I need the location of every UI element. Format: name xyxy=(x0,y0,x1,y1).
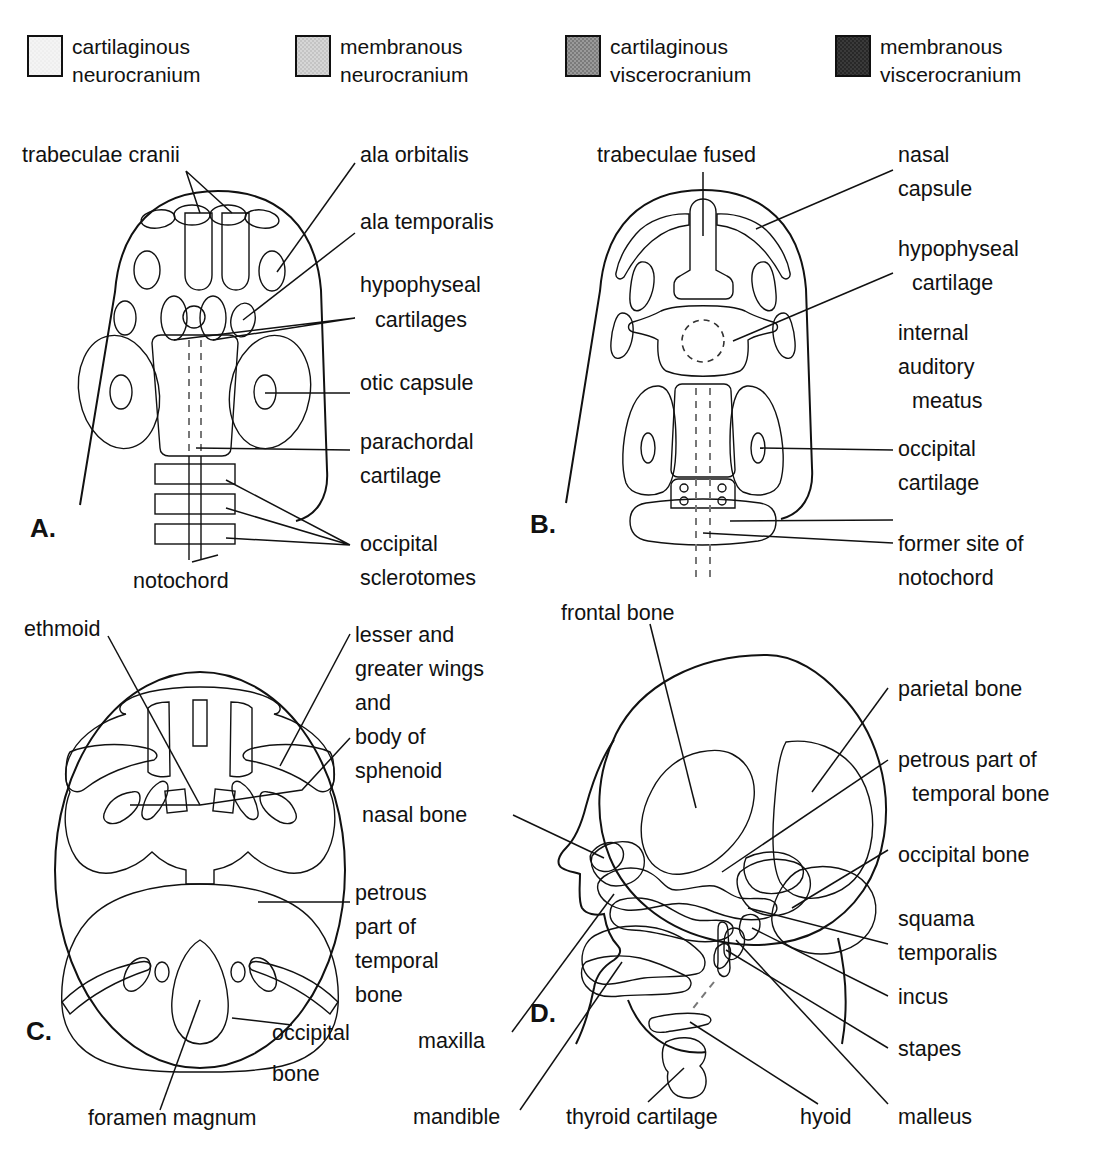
panel-c-letter: C. xyxy=(26,1016,52,1046)
panel-c-label-sphenoid-line2: greater wings xyxy=(355,657,484,681)
legend-label-line2: neurocranium xyxy=(340,63,468,86)
panel-c-label-sphenoid-line1: lesser and xyxy=(355,623,454,647)
panel-b-label-trabeculae-fused: trabeculae fused xyxy=(597,143,756,167)
panel-d-label-incus: incus xyxy=(898,985,948,1009)
legend-label-line2: viscerocranium xyxy=(610,63,751,86)
legend-label-line1: membranous xyxy=(340,35,463,58)
panel-d-letter: D. xyxy=(530,998,556,1028)
panel-a-letter: A. xyxy=(30,513,56,543)
legend-swatch-membranous-neurocranium xyxy=(296,36,330,76)
panel-d-label-malleus: malleus xyxy=(898,1105,972,1129)
panel-c-label-petrous-line4: bone xyxy=(355,983,403,1007)
panel-d-label-petrous-line1: petrous part of xyxy=(898,748,1037,772)
panel-b-leader-occipital-cartilage xyxy=(730,520,893,521)
legend-swatch-membranous-viscerocranium xyxy=(836,36,870,76)
legend-label-line1: membranous xyxy=(880,35,1003,58)
panel-a-label-occipital-line2: sclerotomes xyxy=(360,566,476,590)
legend-swatch-cartilaginous-neurocranium xyxy=(28,36,62,76)
panel-a-label-otic-capsule: otic capsule xyxy=(360,371,474,395)
panel-d-label-hyoid: hyoid xyxy=(800,1105,851,1129)
legend-label-line1: cartilaginous xyxy=(72,35,190,58)
panel-a-label-notochord: notochord xyxy=(133,569,229,593)
panel-d-label-mandible: mandible xyxy=(413,1105,500,1129)
panel-c-label-occipital-line2: bone xyxy=(272,1062,320,1086)
figure-canvas: cartilaginous neurocranium membranous ne… xyxy=(0,0,1098,1155)
panel-d-label-frontal-bone: frontal bone xyxy=(561,601,675,625)
panel-d-label-squama-line1: squama xyxy=(898,907,975,931)
panel-d-label-squama-line2: temporalis xyxy=(898,941,997,965)
panel-b-letter: B. xyxy=(530,509,556,539)
panel-d-label-occipital-bone: occipital bone xyxy=(898,843,1029,867)
panel-b-label-occipital-line1: occipital xyxy=(898,437,976,461)
panel-a-label-hypophyseal-line1: hypophyseal xyxy=(360,273,481,297)
skull-development-figure: cartilaginous neurocranium membranous ne… xyxy=(0,0,1098,1155)
panel-d-label-maxilla: maxilla xyxy=(418,1029,485,1053)
panel-c-label-sphenoid-line3: and xyxy=(355,691,391,715)
panel-b-label-internal-line2: auditory xyxy=(898,355,975,379)
panel-a-label-trabeculae-cranii: trabeculae cranii xyxy=(22,143,180,167)
panel-c-label-sphenoid-line4: body of xyxy=(355,725,426,749)
panel-d-label-petrous-line2: temporal bone xyxy=(912,782,1049,806)
panel-a-label-parachordal-line1: parachordal xyxy=(360,430,474,454)
panel-c-label-petrous-line1: petrous xyxy=(355,881,427,905)
panel-d-label-nasal-bone: nasal bone xyxy=(362,803,467,827)
panel-b-label-hypophyseal-line1: hypophyseal xyxy=(898,237,1019,261)
legend-swatch-cartilaginous-viscerocranium xyxy=(566,36,600,76)
panel-b-label-nasal-line2: capsule xyxy=(898,177,972,201)
panel-d-label-thyroid-cartilage: thyroid cartilage xyxy=(566,1105,718,1129)
panel-a-label-occipital-line1: occipital xyxy=(360,532,438,556)
legend-label-line2: viscerocranium xyxy=(880,63,1021,86)
panel-c-label-sphenoid-line5: sphenoid xyxy=(355,759,442,783)
panel-d-label-stapes: stapes xyxy=(898,1037,961,1061)
panel-a-label-ala-temporalis: ala temporalis xyxy=(360,210,494,234)
panel-b-label-former-line1: former site of xyxy=(898,532,1023,556)
panel-b-label-occipital-line2: cartilage xyxy=(898,471,979,495)
panel-a-label-parachordal-line2: cartilage xyxy=(360,464,441,488)
panel-b-label-internal-line3: meatus xyxy=(912,389,983,413)
panel-c-label-petrous-line2: part of xyxy=(355,915,416,939)
panel-b-label-internal-line1: internal xyxy=(898,321,969,345)
panel-c-label-foramen-magnum: foramen magnum xyxy=(88,1106,257,1130)
panel-b-label-former-line2: notochord xyxy=(898,566,994,590)
panel-c-label-ethmoid: ethmoid xyxy=(24,617,101,641)
panel-a-label-hypophyseal-line2: cartilages xyxy=(375,308,467,332)
panel-c-label-occipital-line1: occipital xyxy=(272,1021,350,1045)
panel-c-label-petrous-line3: temporal xyxy=(355,949,439,973)
legend-label-line1: cartilaginous xyxy=(610,35,728,58)
panel-b-label-nasal-line1: nasal xyxy=(898,143,949,167)
panel-b-label-hypophyseal-line2: cartilage xyxy=(912,271,993,295)
panel-d-label-parietal-bone: parietal bone xyxy=(898,677,1022,701)
legend-label-line2: neurocranium xyxy=(72,63,200,86)
panel-a-label-ala-orbitalis: ala orbitalis xyxy=(360,143,469,167)
